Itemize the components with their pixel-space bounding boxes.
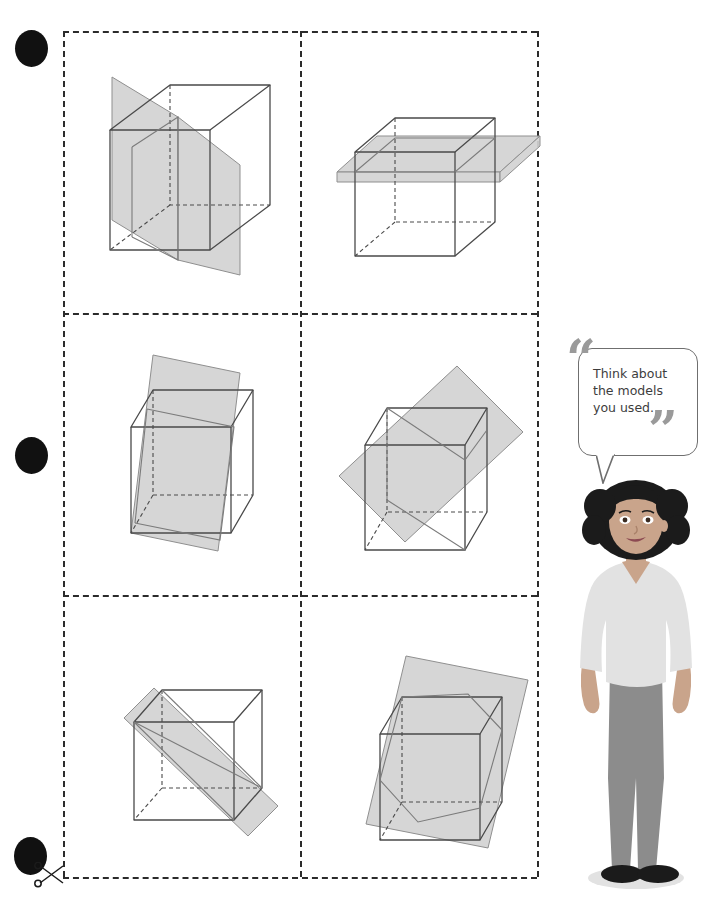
figure-cell-1 [80,55,300,270]
figure-5-cube-with-plane [110,680,310,860]
hole-punch-top [15,30,48,67]
worksheet-page: Think about the models you used. “ ” [0,0,717,916]
figure-cell-4 [325,360,540,570]
figure-4-cube-with-plane [325,360,540,570]
figure-cell-5 [110,680,310,860]
quote-open-icon: “ [566,333,596,385]
grid-line-left [63,31,65,877]
figure-1-cube-with-plane [80,55,300,270]
figure-2-cube-with-plane [335,110,550,270]
figure-cell-2 [335,110,550,270]
hole-punch-middle [15,437,48,474]
figure-3-cube-with-plane [105,355,305,570]
grid-line-bottom [63,877,537,879]
speech-bubble: Think about the models you used. [578,348,698,456]
figure-cell-6 [340,650,555,865]
figure-cell-3 [105,355,305,570]
quote-close-icon: ” [648,404,678,456]
figure-6-cube-with-plane [340,650,555,865]
student-character-illustration [560,478,712,898]
scissors-icon [33,862,67,888]
